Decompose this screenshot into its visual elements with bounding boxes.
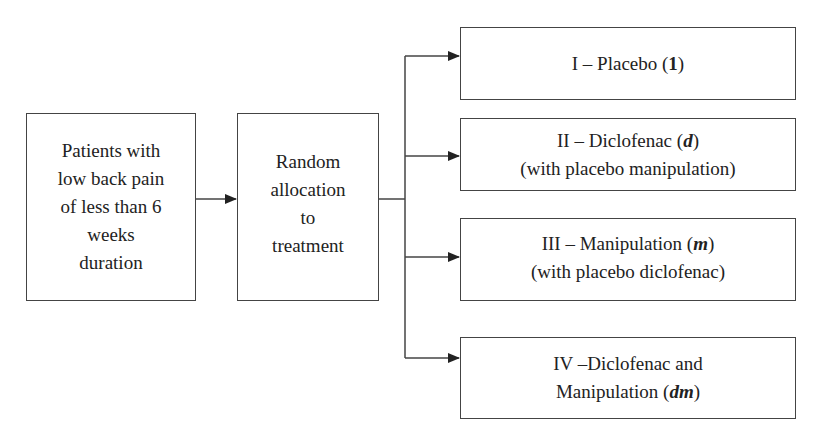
random-line-2: allocation — [271, 176, 346, 204]
patients-line-1: Patients with — [62, 137, 161, 165]
random-line-1: Random — [276, 148, 340, 176]
patients-box: Patients with low back pain of less than… — [26, 113, 196, 301]
group3-label: III – Manipulation (m) — [542, 230, 715, 258]
group1-label: I – Placebo (1) — [572, 50, 684, 78]
group4-sublabel: Manipulation (dm) — [556, 378, 700, 406]
group3-sublabel: (with placebo diclofenac) — [531, 258, 725, 286]
patients-line-2: low back pain — [58, 165, 165, 193]
group2-label: II – Diclofenac (d) — [557, 127, 699, 155]
random-line-4: treatment — [272, 232, 344, 260]
group2-symbol: d — [683, 130, 693, 151]
patients-line-3: of less than 6 — [61, 193, 162, 221]
patients-line-5: duration — [79, 249, 142, 277]
random-allocation-box: Random allocation to treatment — [237, 113, 379, 301]
group2-sublabel: (with placebo manipulation) — [520, 155, 735, 183]
group2-diclofenac-box: II – Diclofenac (d) (with placebo manipu… — [460, 118, 796, 191]
group1-symbol: 1 — [668, 53, 678, 74]
group4-label: IV –Diclofenac and — [553, 350, 702, 378]
group3-symbol: m — [693, 233, 708, 254]
group4-symbol: dm — [669, 381, 693, 402]
group4-combined-box: IV –Diclofenac and Manipulation (dm) — [460, 337, 796, 419]
random-line-3: to — [301, 204, 316, 232]
patients-line-4: weeks — [87, 221, 134, 249]
group1-placebo-box: I – Placebo (1) — [460, 27, 796, 100]
group3-manipulation-box: III – Manipulation (m) (with placebo dic… — [460, 218, 796, 301]
